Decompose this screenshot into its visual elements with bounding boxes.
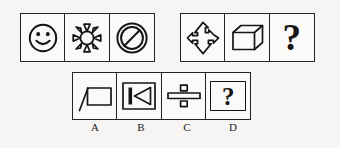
puzzle-sheet: ? xyxy=(0,0,340,148)
prohibition-sign-icon xyxy=(114,20,150,56)
option-label-d: D xyxy=(210,121,256,134)
figure-set-1-cell-3 xyxy=(109,13,155,62)
figure-set-2: ? xyxy=(180,13,315,62)
option-label-a: A xyxy=(72,121,118,134)
figure-set-2-cell-1 xyxy=(180,13,226,62)
question-mark-icon: ? xyxy=(222,84,235,109)
sun-icon xyxy=(69,20,105,56)
option-c[interactable] xyxy=(161,72,207,120)
skip-back-icon xyxy=(120,80,158,112)
figure-set-1-cell-1 xyxy=(20,13,66,62)
option-d[interactable]: ? xyxy=(205,72,251,120)
option-labels: A B C D xyxy=(72,121,258,134)
figure-set-1-cell-2 xyxy=(64,13,110,62)
smiley-face-icon xyxy=(26,21,60,55)
question-mark-icon: ? xyxy=(283,19,302,56)
figure-set-2-cell-3: ? xyxy=(269,13,315,62)
figure-set-1 xyxy=(20,13,155,62)
option-label-c: C xyxy=(164,121,210,134)
option-a[interactable] xyxy=(72,72,118,120)
option-b[interactable] xyxy=(116,72,162,120)
division-sign-icon xyxy=(165,81,203,111)
question-mark-framed-icon: ? xyxy=(210,81,246,111)
option-label-b: B xyxy=(118,121,164,134)
four-way-move-arrow-icon xyxy=(185,20,221,56)
figure-set-2-cell-2 xyxy=(224,13,270,62)
flag-rectangle-icon xyxy=(76,79,114,113)
answer-options: ? xyxy=(72,72,251,120)
cube-icon xyxy=(229,22,265,54)
